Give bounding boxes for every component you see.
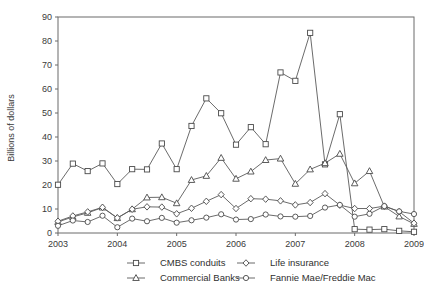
x-tick-label: 2006	[226, 239, 246, 249]
data-point	[397, 209, 402, 214]
y-tick-label: 20	[42, 180, 52, 190]
x-tick-label: 2009	[404, 239, 424, 249]
data-point	[352, 214, 357, 219]
y-tick-label: 80	[42, 36, 52, 46]
data-point	[248, 168, 255, 174]
data-point	[203, 198, 209, 205]
data-point	[85, 219, 90, 224]
legend-item[interactable]: Commercial Banks	[127, 272, 240, 283]
legend-item[interactable]: Fannie Mae/Freddie Mac	[237, 272, 376, 283]
data-point	[55, 182, 60, 187]
y-tick-label: 30	[42, 156, 52, 166]
legend-label: Commercial Banks	[160, 272, 240, 283]
chart-series-layer	[55, 30, 418, 234]
y-tick-label: 50	[42, 108, 52, 118]
data-point	[233, 217, 238, 222]
y-tick-label: 10	[42, 204, 52, 214]
data-point	[397, 228, 402, 233]
data-point	[382, 204, 387, 209]
data-point	[159, 215, 164, 220]
data-point	[382, 227, 387, 232]
data-point	[263, 196, 269, 203]
data-point	[174, 220, 179, 225]
data-point	[293, 214, 298, 219]
data-point	[367, 227, 372, 232]
data-point	[278, 198, 284, 205]
data-point	[337, 202, 342, 207]
x-tick-label: 2004	[107, 239, 127, 249]
data-point	[130, 216, 135, 221]
data-point	[144, 204, 150, 211]
legend-label: Life insurance	[270, 257, 329, 268]
data-point	[115, 181, 120, 186]
chart-figure: 0102030405060708090 20032004200520062007…	[0, 0, 424, 295]
data-point	[115, 225, 120, 230]
y-tick-label: 40	[42, 132, 52, 142]
data-point	[204, 96, 209, 101]
data-point	[351, 180, 358, 186]
data-point	[144, 167, 149, 172]
data-point	[70, 218, 75, 223]
data-point	[263, 142, 268, 147]
data-point	[248, 195, 254, 202]
legend-marker-diamond	[243, 260, 249, 267]
data-point	[337, 112, 342, 117]
data-point	[307, 199, 313, 206]
data-point	[219, 111, 224, 116]
x-tick-label: 2007	[285, 239, 305, 249]
legend-marker-circle	[243, 275, 248, 280]
y-axis-title: Billions of dollars	[6, 94, 16, 162]
data-point	[174, 211, 180, 218]
legend-marker-square	[133, 260, 138, 265]
legend-label: Fannie Mae/Freddie Mac	[270, 272, 376, 283]
x-tick-label: 2005	[167, 239, 187, 249]
data-point	[278, 70, 283, 75]
x-axis-tick-labels: 2003200420052006200720082009	[48, 239, 424, 249]
y-tick-label: 90	[42, 12, 52, 22]
data-point	[248, 125, 253, 130]
x-tick-label: 2008	[345, 239, 365, 249]
data-point	[308, 213, 313, 218]
data-point	[307, 166, 314, 172]
data-point	[189, 123, 194, 128]
data-point	[322, 205, 327, 210]
series-cmbs-conduits	[55, 30, 416, 234]
x-tick-label: 2003	[48, 239, 68, 249]
data-point	[70, 161, 75, 166]
data-point	[233, 142, 238, 147]
data-point	[277, 155, 284, 161]
data-point	[352, 227, 357, 232]
data-point	[100, 213, 105, 218]
data-point	[204, 215, 209, 220]
data-point	[218, 155, 225, 161]
data-point	[130, 167, 135, 172]
data-point	[159, 204, 165, 211]
data-point	[189, 205, 195, 212]
y-axis-tick-labels: 0102030405060708090	[42, 12, 52, 238]
y-tick-label: 60	[42, 84, 52, 94]
data-point	[292, 202, 298, 209]
data-point	[85, 168, 90, 173]
data-point	[248, 216, 253, 221]
data-point	[367, 211, 372, 216]
data-point	[55, 223, 60, 228]
data-point	[337, 150, 344, 156]
legend-marker-triangle	[133, 275, 140, 281]
data-point	[219, 212, 224, 217]
legend-item[interactable]: Life insurance	[237, 257, 329, 268]
data-point	[174, 167, 179, 172]
data-point	[293, 78, 298, 83]
y-tick-label: 70	[42, 60, 52, 70]
data-point	[159, 194, 166, 200]
data-point	[263, 212, 268, 217]
legend-item[interactable]: CMBS conduits	[127, 257, 226, 268]
data-point	[322, 190, 328, 197]
line-chart: 0102030405060708090 20032004200520062007…	[0, 0, 424, 295]
data-point	[411, 211, 416, 216]
legend-label: CMBS conduits	[160, 257, 226, 268]
data-point	[411, 229, 416, 234]
data-point	[278, 214, 283, 219]
chart-legend: CMBS conduitsLife insuranceCommercial Ba…	[127, 257, 376, 283]
data-point	[308, 30, 313, 35]
data-point	[100, 161, 105, 166]
